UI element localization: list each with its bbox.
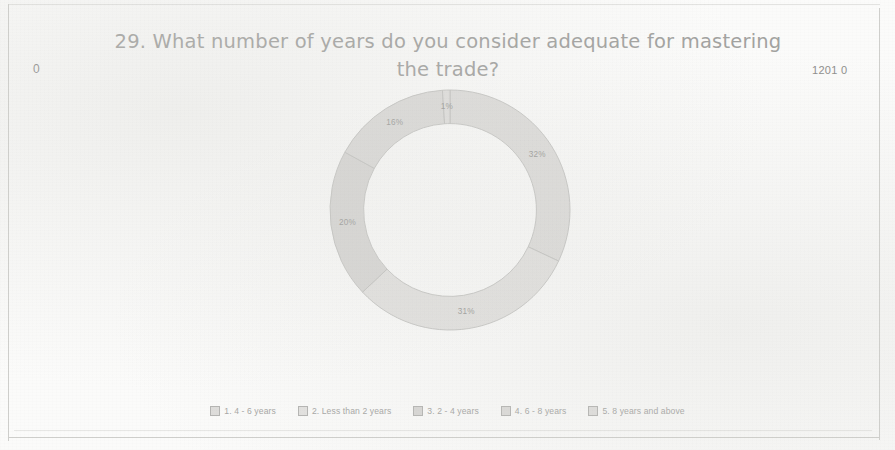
legend-item[interactable]: 4. 6 - 8 years xyxy=(501,406,567,416)
donut-slice-label: 16% xyxy=(386,118,403,127)
legend-item[interactable]: 1. 4 - 6 years xyxy=(210,406,276,416)
donut-slice-label: 31% xyxy=(458,307,475,316)
legend-swatch-icon xyxy=(210,406,220,416)
slide-border-bottom xyxy=(8,437,880,438)
legend-item[interactable]: 5. 8 years and above xyxy=(588,406,684,416)
donut-slice[interactable] xyxy=(363,247,559,330)
legend-swatch-icon xyxy=(501,406,511,416)
chart-legend: 1. 4 - 6 years2. Less than 2 years3. 2 -… xyxy=(0,406,895,416)
donut-slice-group xyxy=(330,90,570,330)
donut-slice-label: 32% xyxy=(529,150,546,159)
slide-border-top xyxy=(8,4,880,5)
donut-slice[interactable] xyxy=(450,90,570,261)
legend-swatch-icon xyxy=(298,406,308,416)
legend-item-label: 5. 8 years and above xyxy=(602,406,684,416)
legend-item-label: 3. 2 - 4 years xyxy=(427,406,479,416)
slide-border-right xyxy=(879,8,880,440)
donut-chart: 32%31%20%16%1% xyxy=(322,82,578,338)
legend-swatch-icon xyxy=(413,406,423,416)
corner-number-right: 1201 0 xyxy=(812,64,847,76)
donut-slice[interactable] xyxy=(345,90,445,168)
legend-swatch-icon xyxy=(588,406,598,416)
donut-slice-label: 1% xyxy=(441,102,453,111)
corner-number-left: 0 xyxy=(33,62,40,76)
donut-slice-label: 20% xyxy=(339,218,356,227)
slide-border-inner-bottom xyxy=(14,430,872,431)
legend-item[interactable]: 3. 2 - 4 years xyxy=(413,406,479,416)
legend-item-label: 2. Less than 2 years xyxy=(312,406,391,416)
page-title: 29. What number of years do you consider… xyxy=(112,28,784,84)
legend-item-label: 4. 6 - 8 years xyxy=(515,406,567,416)
chart-slide: 0 1201 0 29. What number of years do you… xyxy=(0,0,895,450)
slide-border-left xyxy=(8,4,9,441)
legend-item[interactable]: 2. Less than 2 years xyxy=(298,406,391,416)
legend-item-label: 1. 4 - 6 years xyxy=(224,406,276,416)
donut-chart-svg: 32%31%20%16%1% xyxy=(322,82,578,338)
